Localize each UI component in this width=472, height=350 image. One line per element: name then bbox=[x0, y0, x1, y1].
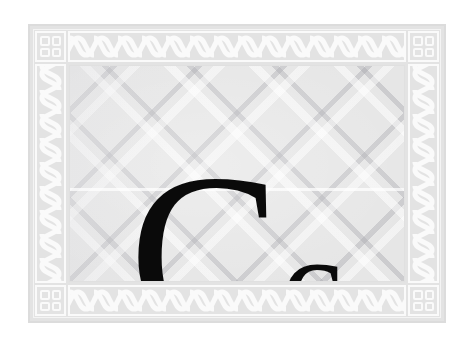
corner-dot-icon bbox=[52, 48, 62, 58]
braid-bottom bbox=[68, 285, 406, 316]
flashcard-canvas: C c bbox=[0, 0, 472, 350]
corner-dot-icon bbox=[413, 290, 423, 300]
lowercase-letter: c bbox=[281, 214, 343, 282]
letter-pair: C c bbox=[70, 66, 404, 281]
picture-area: C c bbox=[69, 65, 405, 282]
corner-dot-icon bbox=[425, 48, 435, 58]
corner-top-left bbox=[35, 31, 66, 62]
rope-braid-icon bbox=[70, 33, 406, 60]
corner-bottom-left bbox=[35, 285, 66, 316]
card-frame: C c bbox=[28, 24, 446, 323]
rope-braid-icon bbox=[410, 66, 437, 283]
corner-dot-icon bbox=[52, 36, 62, 46]
rope-braid-icon bbox=[70, 287, 406, 314]
corner-dot-icon bbox=[52, 290, 62, 300]
corner-dot-icon bbox=[40, 302, 50, 312]
rope-braid-icon bbox=[37, 66, 64, 283]
corner-bottom-right bbox=[408, 285, 439, 316]
corner-dot-icon bbox=[425, 302, 435, 312]
corner-dot-icon bbox=[52, 302, 62, 312]
corner-dot-icon bbox=[413, 302, 423, 312]
corner-dot-icon bbox=[40, 48, 50, 58]
corner-dot-icon bbox=[413, 36, 423, 46]
corner-dot-icon bbox=[40, 290, 50, 300]
corner-dot-icon bbox=[40, 36, 50, 46]
corner-dot-icon bbox=[425, 290, 435, 300]
braid-left bbox=[35, 64, 66, 283]
corner-top-right bbox=[408, 31, 439, 62]
braid-top bbox=[68, 31, 406, 62]
corner-dot-icon bbox=[413, 48, 423, 58]
corner-dot-icon bbox=[425, 36, 435, 46]
braid-right bbox=[408, 64, 439, 283]
uppercase-letter: C bbox=[129, 140, 275, 282]
